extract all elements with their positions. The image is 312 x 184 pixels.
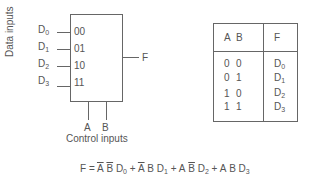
header-b: B: [236, 24, 264, 52]
input-wire-d3: [57, 86, 70, 87]
control-b-label: B: [102, 123, 109, 133]
table-row: 1 0 D2: [214, 86, 298, 101]
output-label: F: [142, 53, 148, 63]
truth-table-header: A B F: [214, 24, 298, 52]
input-d1-label: D1: [38, 42, 49, 53]
cell-b: 0: [236, 86, 264, 101]
input-wire-d1: [57, 49, 70, 50]
cell-f: D1: [264, 70, 298, 85]
cell-a: 0: [214, 51, 237, 70]
cell-a: 1: [214, 101, 237, 122]
select-code-01: 01: [74, 44, 85, 54]
table-row: 0 1 D1: [214, 70, 298, 85]
cell-b: 1: [236, 101, 264, 122]
input-wire-d2: [57, 66, 70, 67]
select-code-00: 00: [74, 27, 85, 37]
cell-b: 1: [236, 70, 264, 85]
data-inputs-label: Data inputs: [4, 6, 15, 57]
cell-a: 1: [214, 86, 237, 101]
control-wire-b: [106, 102, 107, 120]
header-a: A: [214, 24, 237, 52]
cell-a: 0: [214, 70, 237, 85]
cell-f: D0: [264, 51, 298, 70]
cell-f: D2: [264, 86, 298, 101]
control-inputs-label: Control inputs: [66, 134, 128, 144]
control-a-label: A: [84, 123, 91, 133]
table-row: 1 1 D3: [214, 101, 298, 122]
cell-b: 0: [236, 51, 264, 70]
input-d0-label: D0: [38, 25, 49, 36]
input-wire-d0: [57, 32, 70, 33]
output-wire: [123, 57, 139, 58]
table-row: 0 0 D0: [214, 51, 298, 70]
input-d2-label: D2: [38, 59, 49, 70]
input-d3-label: D3: [38, 76, 49, 87]
truth-table: A B F 0 0 D0 0 1 D1 1 0 D2 1 1 D3: [213, 23, 298, 122]
select-code-10: 10: [74, 61, 85, 71]
header-f: F: [264, 24, 298, 52]
select-code-11: 11: [74, 78, 84, 88]
boolean-equation: F = A B D0 + A B D1 + A B D2 + A B D3: [80, 163, 250, 175]
control-wire-a: [88, 102, 89, 120]
cell-f: D3: [264, 101, 298, 122]
